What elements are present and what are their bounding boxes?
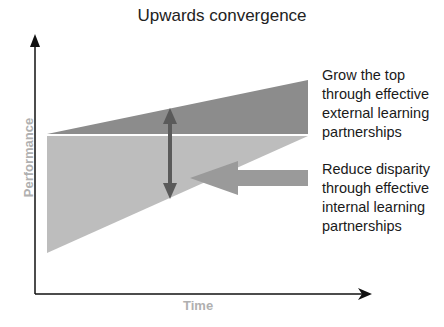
y-axis-arrowhead-icon	[30, 34, 40, 47]
annotation-line: external learning	[322, 104, 429, 123]
annotation-line: internal learning	[322, 198, 430, 217]
annotation-line: Grow the top	[322, 66, 429, 85]
x-axis-label: Time	[183, 298, 213, 313]
annotation-line: Reduce disparity	[322, 160, 430, 179]
annotation-line: partnerships	[322, 217, 430, 236]
reduce-disparity-annotation: Reduce disparity through effective inter…	[322, 160, 430, 236]
y-axis-label: Performance	[21, 118, 36, 198]
grow-top-annotation: Grow the top through effective external …	[322, 66, 429, 142]
annotation-line: through effective	[322, 85, 429, 104]
lower-performance-region	[47, 136, 308, 253]
upper-performance-region	[47, 80, 308, 134]
annotation-line: through effective	[322, 179, 430, 198]
annotation-line: partnerships	[322, 123, 429, 142]
